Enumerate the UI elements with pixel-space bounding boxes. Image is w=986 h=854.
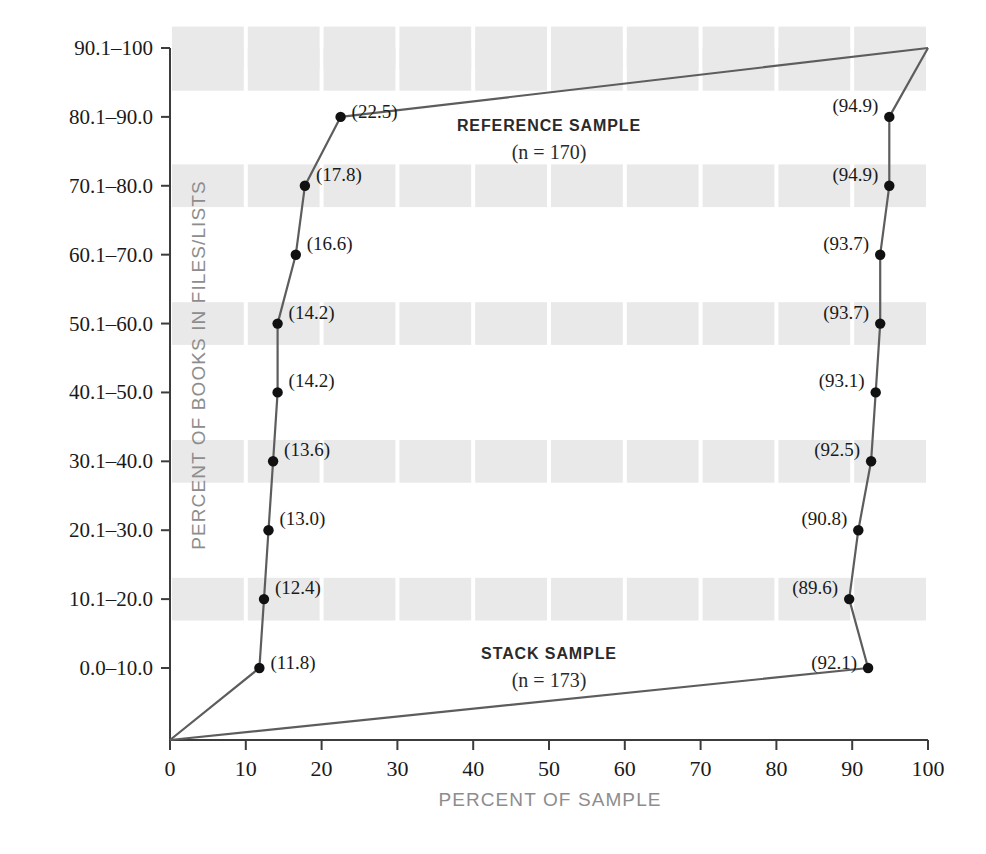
grid-band — [475, 578, 547, 621]
series-annotation-count: (n = 170) — [512, 141, 587, 164]
data-point — [871, 387, 881, 397]
grid-band — [475, 440, 547, 483]
grid-band — [172, 48, 244, 91]
y-tick-label: 70.1–80.0 — [69, 174, 153, 198]
point-value-label: (92.5) — [814, 439, 860, 461]
x-tick-label: 70 — [690, 756, 712, 781]
data-point — [254, 663, 264, 673]
data-point — [863, 663, 873, 673]
x-tick-label: 50 — [538, 756, 560, 781]
x-tick-label: 20 — [311, 756, 333, 781]
data-point — [875, 250, 885, 260]
point-value-label: (14.2) — [289, 302, 335, 324]
grid-band — [778, 48, 850, 91]
grid-band — [324, 440, 396, 483]
x-tick-label: 10 — [235, 756, 257, 781]
grid-band — [399, 302, 471, 345]
grid-band — [248, 48, 320, 91]
x-tick-label: 80 — [765, 756, 787, 781]
grid-band — [324, 578, 396, 621]
data-point — [884, 181, 894, 191]
grid-band — [627, 440, 699, 483]
grid-band — [475, 48, 547, 91]
grid-band — [627, 48, 699, 91]
x-tick-label: 40 — [462, 756, 484, 781]
series-annotation-count: (n = 173) — [512, 669, 587, 692]
grid-band — [399, 48, 471, 91]
grid-band — [703, 578, 775, 621]
x-tick-label: 30 — [386, 756, 408, 781]
x-tick-label: 0 — [165, 756, 176, 781]
y-tick-label: 20.1–30.0 — [69, 518, 153, 542]
data-point — [291, 250, 301, 260]
grid-band — [854, 440, 926, 483]
grid-band — [551, 578, 623, 621]
data-point — [884, 112, 894, 122]
x-tick-label: 90 — [841, 756, 863, 781]
data-point — [335, 112, 345, 122]
point-value-label: (93.1) — [819, 370, 865, 392]
line-chart: 0.0–10.010.1–20.020.1–30.030.1–40.040.1–… — [0, 0, 986, 854]
grid-band — [551, 164, 623, 207]
x-tick-label: 60 — [614, 756, 636, 781]
x-axis-title: PERCENT OF SAMPLE — [438, 789, 661, 810]
grid-band — [399, 440, 471, 483]
point-value-label: (92.1) — [811, 652, 857, 674]
y-tick-label: 40.1–50.0 — [69, 380, 153, 404]
data-point — [300, 181, 310, 191]
data-point — [268, 456, 278, 466]
y-tick-label: 60.1–70.0 — [69, 243, 153, 267]
data-point — [263, 525, 273, 535]
y-tick-label: 30.1–40.0 — [69, 449, 153, 473]
grid-band — [703, 302, 775, 345]
series-annotation-name: REFERENCE SAMPLE — [457, 117, 641, 134]
point-value-label: (13.0) — [280, 508, 326, 530]
data-point — [853, 525, 863, 535]
x-tick-label: 100 — [912, 756, 945, 781]
grid-band — [627, 578, 699, 621]
grid-band — [703, 164, 775, 207]
point-value-label: (22.5) — [352, 101, 398, 123]
data-point — [259, 594, 269, 604]
grid-band — [627, 302, 699, 345]
grid-band — [172, 578, 244, 621]
y-tick-label: 0.0–10.0 — [80, 656, 154, 680]
point-value-label: (90.8) — [801, 508, 847, 530]
data-point — [272, 318, 282, 328]
series-annotation-name: STACK SAMPLE — [481, 645, 617, 662]
data-point — [866, 456, 876, 466]
data-point — [844, 594, 854, 604]
grid-band — [324, 48, 396, 91]
grid-band — [399, 164, 471, 207]
point-value-label: (93.7) — [823, 302, 869, 324]
point-value-label: (17.8) — [316, 164, 362, 186]
point-value-label: (89.6) — [792, 577, 838, 599]
data-point — [272, 387, 282, 397]
y-tick-label: 10.1–20.0 — [69, 587, 153, 611]
y-tick-label: 50.1–60.0 — [69, 312, 153, 336]
grid-band — [703, 440, 775, 483]
grid-band — [399, 578, 471, 621]
point-value-label: (16.6) — [307, 233, 353, 255]
point-value-label: (12.4) — [275, 577, 321, 599]
point-value-label: (11.8) — [270, 652, 315, 674]
point-value-label: (13.6) — [284, 439, 330, 461]
grid-band — [551, 440, 623, 483]
y-tick-label: 90.1–100 — [74, 36, 153, 60]
data-point — [875, 318, 885, 328]
grid-band — [551, 302, 623, 345]
grid-band — [475, 164, 547, 207]
grid-band — [854, 578, 926, 621]
point-value-label: (14.2) — [289, 370, 335, 392]
point-value-label: (93.7) — [823, 233, 869, 255]
y-tick-label: 80.1–90.0 — [69, 105, 153, 129]
y-axis-title: PERCENT OF BOOKS IN FILES/LISTS — [188, 180, 209, 550]
point-value-label: (94.9) — [832, 164, 878, 186]
grid-band — [627, 164, 699, 207]
point-value-label: (94.9) — [832, 95, 878, 117]
grid-band — [475, 302, 547, 345]
chart-container: 0.0–10.010.1–20.020.1–30.030.1–40.040.1–… — [0, 0, 986, 854]
